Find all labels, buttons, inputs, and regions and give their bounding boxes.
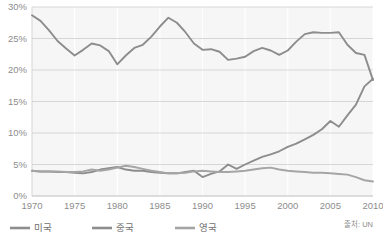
- y-axis-tick-label: 10%: [8, 127, 28, 138]
- line-chart: 0%5%10%15%20%25%30%197019751980198519901…: [0, 0, 383, 245]
- x-axis-tick-label: 1985: [149, 200, 170, 211]
- legend-label-중국: 중국: [116, 222, 134, 233]
- y-axis-tick-label: 5%: [13, 159, 27, 170]
- x-axis-tick-label: 1975: [64, 200, 85, 211]
- x-axis-tick-label: 1990: [192, 200, 213, 211]
- y-axis-tick-label: 30%: [8, 1, 28, 12]
- x-axis-tick-label: 1980: [107, 200, 128, 211]
- x-axis-tick-label: 2010: [362, 200, 383, 211]
- y-axis-tick-label: 15%: [8, 96, 28, 107]
- x-axis-tick-label: 1970: [21, 200, 42, 211]
- chart-container: 0%5%10%15%20%25%30%197019751980198519901…: [0, 0, 383, 245]
- source-note: 출처: UN: [344, 219, 373, 229]
- x-axis-tick-label: 2000: [277, 200, 298, 211]
- y-axis-tick-label: 20%: [8, 64, 28, 75]
- x-axis-tick-label: 1995: [235, 200, 256, 211]
- y-axis-tick-label: 25%: [8, 33, 28, 44]
- legend-label-영국: 영국: [199, 222, 217, 233]
- x-axis-tick-label: 2005: [320, 200, 341, 211]
- legend-label-미국: 미국: [34, 222, 52, 233]
